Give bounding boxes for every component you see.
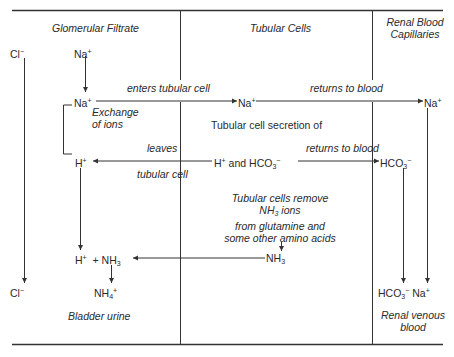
hco3-na-venous: HCO3− Na+ xyxy=(378,285,430,303)
bladder-urine-label: Bladder urine xyxy=(68,310,130,322)
h-plus-nh3-urine: H+ + NH3 xyxy=(75,252,121,270)
exchange-of-ions-label: Exchangeof ions xyxy=(92,106,139,130)
renal-blood-capillaries-header: Renal Blood Capillaries xyxy=(378,16,452,40)
nh3-ion-cell: NH3 xyxy=(266,252,285,268)
hco3-ion-blood: HCO3− xyxy=(380,155,411,173)
h-and-hco3-cell: H+ and HCO3− xyxy=(214,155,280,173)
na-ion-cell: Na+ xyxy=(238,95,256,109)
na-ion-blood: Na+ xyxy=(424,95,442,109)
tubular-cell-label: tubular cell xyxy=(137,168,188,180)
nh3-removal-label: Tubular cells remove NH3 ions from gluta… xyxy=(214,192,346,244)
leaves-label: leaves xyxy=(147,142,177,154)
secretion-label: Tubular cell secretion of xyxy=(211,119,322,131)
tubular-cells-header: Tubular Cells xyxy=(250,22,311,34)
glomerular-filtrate-header: Glomerular Filtrate xyxy=(52,22,139,34)
na-ion-top: Na+ xyxy=(74,46,92,60)
na-ion-exchange: Na+ xyxy=(74,95,92,109)
diagram-lines xyxy=(0,0,454,357)
enters-tubular-cell-label: enters tubular cell xyxy=(127,82,210,94)
cl-ion-bottom: Cl− xyxy=(10,285,24,299)
h-ion-left: H+ xyxy=(75,155,87,169)
cl-ion-top: Cl− xyxy=(10,46,24,60)
nh4-ion: NH4+ xyxy=(94,285,117,303)
renal-venous-blood-label: Renal venousblood xyxy=(376,309,450,333)
returns-to-blood-label-2: returns to blood xyxy=(306,142,379,154)
returns-to-blood-label-1: returns to blood xyxy=(310,82,383,94)
exchange-bracket xyxy=(64,105,73,154)
